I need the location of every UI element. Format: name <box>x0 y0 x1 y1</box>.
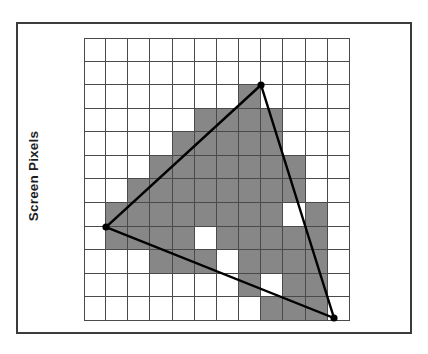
triangle-outline <box>106 85 334 318</box>
triangle-vertex-vertex-bottom-right <box>330 314 337 321</box>
triangle-overlay <box>84 38 350 321</box>
y-axis-label: Screen Pixels <box>26 131 41 221</box>
figure-root: Screen Pixels <box>0 0 428 354</box>
pixel-grid-container <box>84 38 350 321</box>
triangle-vertex-apex-top <box>257 81 264 88</box>
triangle-vertex-vertex-left <box>102 223 109 230</box>
triangle-vertex-markers <box>102 81 337 321</box>
